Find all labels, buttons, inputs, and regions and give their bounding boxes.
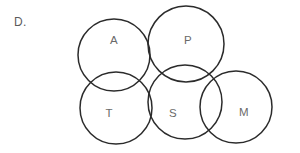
venn-label-p: P xyxy=(184,34,192,46)
venn-circle-m xyxy=(200,71,272,143)
venn-label-m: M xyxy=(239,106,249,118)
venn-circles-canvas: APTSM xyxy=(0,0,300,153)
venn-label-s: S xyxy=(169,107,177,119)
circles-group xyxy=(78,6,272,144)
venn-diagram-figure: D. APTSM xyxy=(0,0,300,153)
venn-circle-t xyxy=(80,72,152,144)
venn-label-a: A xyxy=(110,34,118,46)
venn-label-t: T xyxy=(105,107,112,119)
